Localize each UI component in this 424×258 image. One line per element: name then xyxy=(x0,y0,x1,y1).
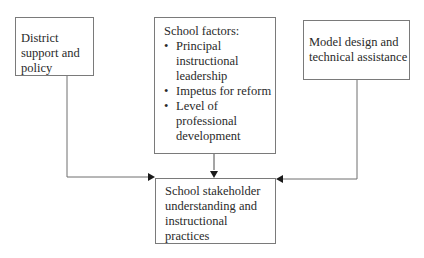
district-support-label: District support and policy xyxy=(21,31,80,75)
district-support-box: District support and policy xyxy=(15,17,94,76)
arrowhead-right-icon xyxy=(148,173,155,181)
arrowhead-down-icon xyxy=(210,171,218,178)
list-item: Impetus for reform xyxy=(164,84,275,99)
school-factors-title: School factors: xyxy=(164,24,275,39)
school-factors-list: Principal instructional leadership Impet… xyxy=(164,39,275,144)
outcome-box: School stakeholder understanding and ins… xyxy=(155,178,276,244)
list-item: Principal instructional leadership xyxy=(164,39,275,84)
model-design-box: Model design and technical assistance xyxy=(303,20,410,80)
model-to-outcome-line xyxy=(283,80,357,179)
outcome-label: School stakeholder understanding and ins… xyxy=(165,184,260,243)
list-item: Level of professional development xyxy=(164,99,275,144)
district-to-outcome-line xyxy=(67,76,149,177)
arrowhead-left-icon xyxy=(276,175,283,183)
school-factors-box: School factors: Principal instructional … xyxy=(154,17,276,154)
model-design-label: Model design and technical assistance xyxy=(309,35,407,64)
